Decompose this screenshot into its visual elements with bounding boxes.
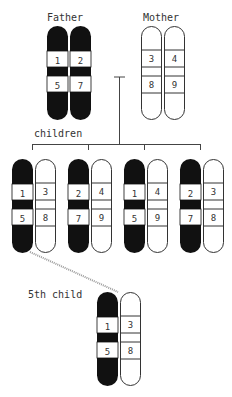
father-chromosome-2: [70, 26, 91, 120]
gene-label: 5: [97, 347, 118, 357]
gene-label: 3: [141, 54, 162, 64]
gene-label: 5: [12, 214, 33, 224]
gene-label: 1: [47, 56, 68, 66]
gene-label: 3: [203, 187, 224, 197]
gene-label: 9: [147, 213, 168, 223]
gene-label: 1: [124, 189, 145, 199]
child-2-light-chromosome: [92, 160, 112, 253]
child-3-light-chromosome: [148, 160, 168, 253]
child-4-light-chromosome: [204, 160, 224, 253]
gene-label: 8: [35, 213, 56, 223]
gene-label: 4: [147, 187, 168, 197]
gene-label: 3: [35, 187, 56, 197]
gene-label: 7: [70, 81, 91, 91]
gene-label: 9: [164, 80, 185, 90]
gene-label: 1: [12, 189, 33, 199]
fifth-child-connector: [30, 252, 118, 292]
gene-label: 2: [68, 189, 89, 199]
gene-label: 5: [124, 214, 145, 224]
child-5-light-chromosome: [121, 293, 141, 386]
gene-label: 4: [91, 187, 112, 197]
child-2-dark-chromosome: [68, 159, 89, 253]
gene-label: 9: [91, 213, 112, 223]
gene-label: 5: [47, 81, 68, 91]
child-1-light-chromosome: [36, 160, 56, 253]
child-3-dark-chromosome: [124, 159, 145, 253]
gene-label: 2: [70, 56, 91, 66]
fifth-child-label: 5th child: [28, 290, 82, 300]
gene-label: 8: [141, 80, 162, 90]
gene-label: 4: [164, 54, 185, 64]
gene-label: 3: [120, 320, 141, 330]
mother-chromosome-1: [142, 27, 162, 120]
gene-label: 8: [120, 346, 141, 356]
mother-chromosome-2: [165, 27, 185, 120]
mother-label: Mother: [143, 13, 179, 23]
child-1-dark-chromosome: [12, 159, 33, 253]
gene-label: 7: [68, 214, 89, 224]
gene-label: 2: [180, 189, 201, 199]
children-label: children: [34, 129, 82, 139]
father-label: Father: [47, 13, 83, 23]
child-5-dark-chromosome: [97, 292, 118, 386]
father-chromosome-1: [47, 26, 68, 120]
child-4-dark-chromosome: [180, 159, 201, 253]
gene-label: 1: [97, 322, 118, 332]
gene-label: 7: [180, 214, 201, 224]
gene-label: 8: [203, 213, 224, 223]
